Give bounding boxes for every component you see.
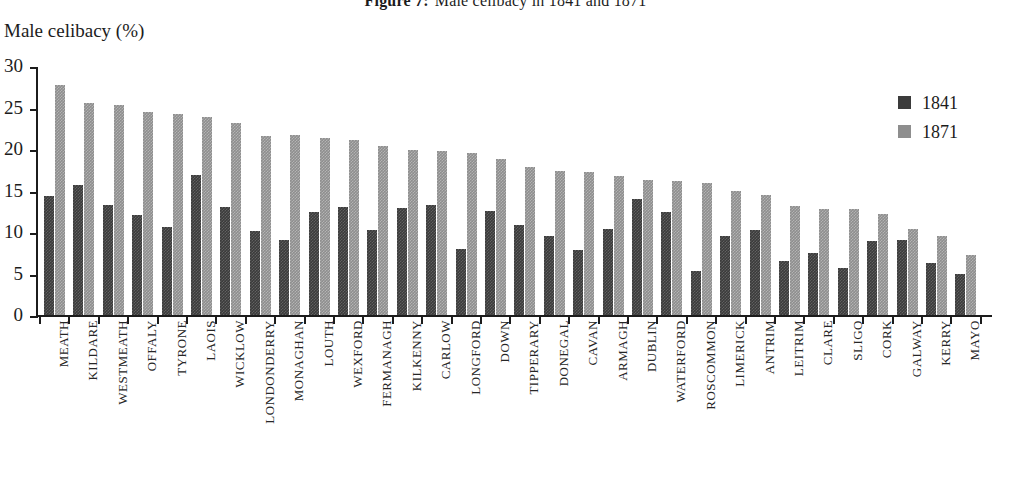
bar-1871	[819, 209, 829, 315]
x-axis-line	[36, 315, 992, 317]
y-axis-tick: 10	[30, 233, 38, 235]
bar-1871	[525, 167, 535, 315]
x-axis-label: TYRONE	[174, 320, 190, 376]
bar-1871	[320, 138, 330, 315]
bar-1871	[614, 176, 624, 315]
x-axis-label: SLIGO	[850, 320, 866, 361]
x-axis-label: CARLOW	[438, 320, 454, 379]
x-axis-label: LAOIS	[203, 320, 219, 361]
bar-1871	[84, 103, 94, 315]
bar-1871	[349, 140, 359, 315]
bar-1841	[73, 185, 83, 315]
x-axis-label: WATERFORD	[673, 320, 689, 403]
x-axis-label: MEATH	[56, 320, 72, 367]
x-axis-label: KILDARE	[85, 320, 101, 381]
bar-1871	[672, 181, 682, 315]
figure-title: Figure 7:Male celibacy in 1841 and 1871	[0, 0, 1011, 10]
bar-1841	[926, 263, 936, 315]
bar-1841	[397, 208, 407, 315]
y-axis-title: Male celibacy (%)	[4, 20, 144, 42]
y-axis-tick: 30	[30, 67, 38, 69]
bar-1871	[908, 229, 918, 315]
y-axis-tick-label: 15	[4, 181, 23, 200]
bar-1841	[103, 205, 113, 315]
bar-1871	[378, 146, 388, 315]
bar-1841	[250, 231, 260, 315]
y-axis-tick-label: 25	[4, 98, 23, 117]
bar-1871	[878, 214, 888, 315]
x-axis-label: TIPPERARY	[526, 320, 542, 395]
bar-1841	[456, 249, 466, 315]
bar-1871	[555, 171, 565, 315]
chart-legend: 1841 1871	[898, 88, 958, 146]
bar-1841	[426, 205, 436, 315]
x-axis-label: ROSCOMMON	[703, 320, 719, 410]
bar-1871	[790, 206, 800, 315]
x-axis-label: DONEGAL	[556, 320, 572, 386]
bar-1841	[485, 211, 495, 315]
legend-label-1841: 1841	[922, 94, 958, 112]
bar-1841	[162, 227, 172, 315]
bar-1871	[202, 117, 212, 315]
bar-1871	[849, 209, 859, 315]
bar-1841	[808, 253, 818, 315]
x-axis-label: ANTRIM	[762, 320, 778, 374]
bar-1841	[367, 230, 377, 315]
x-axis-label: CORK	[879, 320, 895, 358]
y-axis-tick: 5	[30, 275, 38, 277]
bar-1871	[408, 150, 418, 315]
x-axis-label: KERRY	[938, 320, 954, 366]
bar-1871	[261, 136, 271, 315]
bar-1841	[603, 229, 613, 315]
bar-1871	[290, 135, 300, 315]
bar-1871	[761, 195, 771, 315]
bar-1841	[573, 250, 583, 315]
bar-1841	[838, 268, 848, 315]
bar-1871	[114, 105, 124, 315]
bar-1871	[584, 172, 594, 315]
figure-title-label: Figure 7:	[365, 0, 429, 9]
x-axis-label: MAYO	[967, 320, 983, 361]
bar-1841	[691, 271, 701, 315]
legend-item-1841: 1841	[898, 88, 958, 117]
x-axis-label: ARMAGH	[615, 320, 631, 381]
x-axis-label: WICKLOW	[232, 320, 248, 388]
y-axis-tick: 25	[30, 109, 38, 111]
y-axis-tick-label: 10	[4, 222, 23, 241]
x-axis-label: LOUTH	[321, 320, 337, 367]
y-axis-tick: 20	[30, 150, 38, 152]
bar-1841	[955, 274, 965, 316]
bar-1871	[937, 236, 947, 315]
bar-1841	[220, 207, 230, 315]
y-axis-tick-label: 20	[4, 139, 23, 158]
bar-1841	[44, 196, 54, 315]
x-axis-label: OFFALY	[144, 320, 160, 371]
plot-area: 051015202530	[36, 64, 992, 317]
legend-item-1871: 1871	[898, 117, 958, 146]
bar-1871	[143, 112, 153, 315]
x-axis-label: LIMERICK	[732, 320, 748, 387]
x-axis-labels: MEATHKILDAREWESTMEATHOFFALYTYRONELAOISWI…	[36, 320, 992, 460]
x-axis-label: LONDONDERRY	[262, 320, 278, 424]
bar-1841	[544, 236, 554, 315]
bar-1841	[309, 212, 319, 315]
bar-1841	[132, 215, 142, 315]
bar-1871	[231, 123, 241, 315]
x-axis-label: FERMANAGH	[379, 320, 395, 407]
bar-1841	[897, 240, 907, 315]
figure-title-text: Male celibacy in 1841 and 1871	[435, 0, 647, 9]
bar-1841	[191, 175, 201, 315]
bar-1871	[966, 255, 976, 315]
x-axis-label: DOWN	[497, 320, 513, 362]
bar-1841	[279, 240, 289, 315]
bar-1841	[750, 230, 760, 315]
y-axis-tick: 15	[30, 192, 38, 194]
bar-1871	[55, 85, 65, 315]
bar-1871	[731, 191, 741, 315]
bar-1841	[338, 207, 348, 315]
y-axis-tick-label: 30	[4, 56, 23, 75]
bar-1871	[437, 151, 447, 315]
bar-1841	[779, 261, 789, 315]
bar-1871	[173, 114, 183, 315]
legend-swatch-1841-icon	[898, 96, 911, 109]
